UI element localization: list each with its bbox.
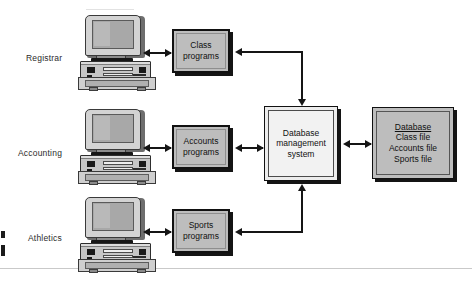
accounts-programs-box: Accounts programs <box>172 125 230 169</box>
screen-glare <box>94 116 110 140</box>
row-label-accounting: Accounting <box>18 148 62 158</box>
optical-drive-slot <box>103 255 133 258</box>
keyboard-foot <box>89 87 98 91</box>
power-indicator <box>87 249 95 255</box>
arrowhead-to-class-programs <box>165 49 172 57</box>
power-indicator <box>87 161 95 167</box>
monitor-bezel <box>85 15 141 56</box>
row-label-registrar: Registrar <box>26 53 62 63</box>
monitor-bezel <box>85 197 141 238</box>
database-file-item-sports: Sports file <box>389 154 437 165</box>
status-indicator <box>139 249 146 255</box>
database-file-item-class: Class file <box>389 132 437 143</box>
keyboard-foot <box>137 269 146 273</box>
arrowhead-to-database-file <box>365 140 372 148</box>
keyboard-keys <box>85 174 149 181</box>
monitor-screen <box>92 20 134 49</box>
class-programs-box: Class programs <box>172 29 230 73</box>
keyboard-keys <box>85 80 149 87</box>
power-indicator <box>87 67 95 73</box>
system-unit-top <box>81 156 150 159</box>
monitor-bezel <box>85 109 141 150</box>
floppy-drive-slot <box>103 161 133 165</box>
sports-programs-label-line2: programs <box>183 231 219 242</box>
screen-glare <box>94 204 110 228</box>
keyboard-foot <box>137 87 146 91</box>
optical-drive-slot <box>103 73 133 76</box>
dbms-label-line2: management <box>276 138 326 149</box>
keyboard-foot <box>137 181 146 185</box>
keyboard-foot <box>89 181 98 185</box>
connector-class-to-dbms-vertical <box>301 51 303 101</box>
floppy-drive-slot <box>103 249 133 253</box>
dbms-label-line3: system <box>288 149 315 160</box>
monitor-screen <box>92 114 134 143</box>
page-rule-top <box>86 9 134 10</box>
scan-edge-mark <box>1 245 5 256</box>
database-file-box: Database Class file Accounts file Sports… <box>372 107 454 179</box>
monitor-screen <box>92 202 134 231</box>
sports-programs-box: Sports programs <box>172 209 230 253</box>
class-programs-label-line2: programs <box>183 51 219 62</box>
optical-drive-slot <box>103 167 133 170</box>
connector-sports-to-dbms-vertical <box>301 190 303 233</box>
class-programs-label-line1: Class <box>190 40 211 51</box>
connector-sports-to-bus-horizontal <box>241 231 303 233</box>
keyboard <box>78 171 156 184</box>
floppy-drive-slot <box>103 67 133 71</box>
system-unit-top <box>81 62 150 65</box>
arrowhead-to-accounts-programs <box>165 144 172 152</box>
arrowhead-to-sports-programs <box>165 228 172 236</box>
keyboard <box>78 259 156 272</box>
accounts-programs-label-line1: Accounts <box>184 136 219 147</box>
arrowhead-to-dbms-top <box>298 99 306 106</box>
arrowhead-to-dbms-bottom <box>298 184 306 191</box>
screen-glare <box>94 22 110 46</box>
scan-edge-mark <box>1 231 5 238</box>
keyboard-foot <box>89 269 98 273</box>
page-rule-bottom <box>0 268 472 269</box>
keyboard <box>78 77 156 90</box>
dbms-label-line1: Database <box>283 128 319 139</box>
connector-class-to-bus-horizontal <box>241 51 303 53</box>
database-file-item-accounts: Accounts file <box>389 143 437 154</box>
database-management-system-box: Database management system <box>264 106 338 181</box>
database-file-header: Database <box>389 122 437 133</box>
keyboard-keys <box>85 262 149 269</box>
diagram-canvas: Registrar Class <box>0 0 472 284</box>
status-indicator <box>139 67 146 73</box>
status-indicator <box>139 161 146 167</box>
row-label-athletics: Athletics <box>28 233 62 243</box>
arrowhead-to-dbms-left <box>257 144 264 152</box>
accounts-programs-label-line2: programs <box>183 147 219 158</box>
database-file-contents: Database Class file Accounts file Sports… <box>389 122 437 165</box>
system-unit-top <box>81 244 150 247</box>
sports-programs-label-line1: Sports <box>189 220 214 231</box>
